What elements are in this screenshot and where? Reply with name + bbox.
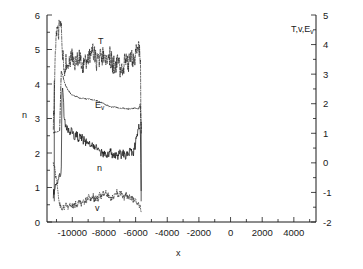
svg-text:2: 2 <box>323 98 328 109</box>
svg-text:5: 5 <box>35 44 40 55</box>
y-axis-right-title-main: T,v,E <box>291 24 310 34</box>
svg-text:0: 0 <box>323 157 328 168</box>
svg-text:3: 3 <box>35 113 40 124</box>
curve-label-Ev: Ev <box>95 100 104 111</box>
svg-text:-2000: -2000 <box>187 227 211 238</box>
curve-label-v: v <box>95 203 100 213</box>
svg-text:4: 4 <box>35 79 40 90</box>
svg-text:-10000: -10000 <box>58 227 88 238</box>
svg-text:-2: -2 <box>323 217 331 228</box>
svg-text:2000: 2000 <box>252 227 273 238</box>
curves-layer <box>53 20 141 212</box>
axes-layer <box>47 15 316 222</box>
svg-text:6: 6 <box>35 10 40 21</box>
tick-labels-layer: -10000-8000-6000-4000-200002000400001234… <box>35 10 332 239</box>
y-axis-left-title: n <box>22 110 27 120</box>
svg-text:0: 0 <box>35 217 40 228</box>
svg-text:1: 1 <box>323 128 328 139</box>
svg-text:-8000: -8000 <box>92 227 116 238</box>
y-axis-right-title-sub: v <box>310 28 313 35</box>
curve-label-T: T <box>98 36 104 46</box>
svg-text:5: 5 <box>323 10 328 21</box>
svg-text:3: 3 <box>323 69 328 80</box>
x-axis-title: x <box>176 248 181 258</box>
curve-label-n: n <box>97 163 102 173</box>
chart-figure: -10000-8000-6000-4000-200002000400001234… <box>0 0 363 269</box>
svg-text:0: 0 <box>228 227 233 238</box>
svg-text:-4000: -4000 <box>155 227 179 238</box>
plot-canvas: -10000-8000-6000-4000-200002000400001234… <box>0 0 363 269</box>
svg-text:-6000: -6000 <box>123 227 147 238</box>
svg-text:1: 1 <box>35 182 40 193</box>
svg-text:2: 2 <box>35 148 40 159</box>
svg-text:4: 4 <box>323 39 328 50</box>
curve-label-Ev-sub: v <box>101 104 104 111</box>
svg-text:4000: 4000 <box>283 227 304 238</box>
svg-text:-1: -1 <box>323 187 331 198</box>
y-axis-right-title: T,v,Ev <box>291 24 314 35</box>
